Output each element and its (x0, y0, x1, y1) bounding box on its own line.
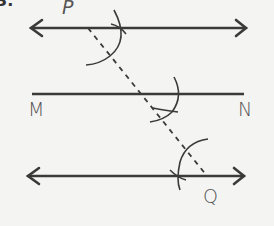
dashed-transversal (88, 28, 207, 176)
arc-at-mn (150, 77, 179, 122)
label-n: N (238, 100, 252, 119)
top-parallel-line (31, 20, 246, 36)
label-m: M (28, 100, 44, 119)
geometry-diagram: 3. P M N Q (0, 0, 274, 226)
corner-label-fragment: 3. (0, 0, 13, 10)
label-q: Q (203, 187, 218, 206)
arc-at-p (86, 10, 121, 65)
label-p: P (62, 0, 73, 17)
bottom-parallel-line (28, 168, 244, 184)
